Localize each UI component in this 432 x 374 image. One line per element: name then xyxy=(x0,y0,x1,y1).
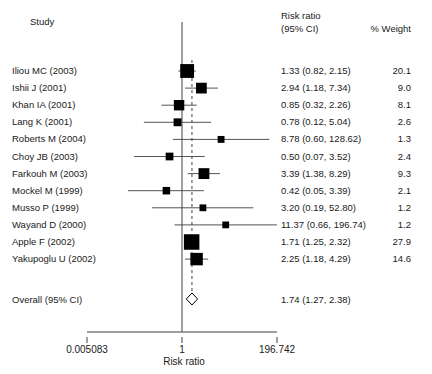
study-effect-marker xyxy=(190,253,202,265)
study-weight-value: 2.6 xyxy=(398,116,411,127)
study-risk-ratio-value: 0.42 (0.05, 3.39) xyxy=(281,185,351,196)
study-effect-marker xyxy=(222,222,229,229)
x-axis-tick-label: 0.005083 xyxy=(66,344,108,355)
column-header-confidence-interval: (95% CI) xyxy=(281,23,318,34)
study-effect-marker xyxy=(200,204,207,211)
study-name-label: Musso P (1999) xyxy=(12,202,79,213)
study-risk-ratio-value: 2.94 (1.18, 7.34) xyxy=(281,82,351,93)
study-weight-value: 9.3 xyxy=(398,168,411,179)
study-effect-marker xyxy=(174,100,184,110)
study-risk-ratio-value: 0.50 (0.07, 3.52) xyxy=(281,151,351,162)
x-axis-tick-label: 196.742 xyxy=(259,344,295,355)
x-axis-tick-label: 1 xyxy=(179,344,185,355)
study-name-label: Khan IA (2001) xyxy=(12,99,75,110)
study-weight-value: 2.4 xyxy=(398,151,411,162)
study-effect-marker xyxy=(184,234,200,250)
study-name-label: Roberts M (2004) xyxy=(12,133,86,144)
study-effect-marker xyxy=(196,83,207,94)
study-effect-marker xyxy=(199,168,210,179)
overall-risk-ratio-value: 1.74 (1.27, 2.38) xyxy=(281,294,351,305)
study-risk-ratio-value: 1.71 (1.25, 2.32) xyxy=(281,236,351,247)
study-weight-value: 1.2 xyxy=(398,202,411,213)
study-name-label: Lang K (2001) xyxy=(12,116,72,127)
axis-title: Risk ratio xyxy=(163,356,205,367)
overall-effect-diamond xyxy=(186,293,197,305)
column-header-weight: % Weight xyxy=(371,23,411,34)
study-name-label: Iliou MC (2003) xyxy=(12,65,77,76)
study-name-label: Farkouh M (2003) xyxy=(12,168,88,179)
study-name-label: Choy JB (2003) xyxy=(12,151,78,162)
study-weight-value: 20.1 xyxy=(393,65,412,76)
study-effect-marker xyxy=(163,187,171,195)
study-name-label: Ishii J (2001) xyxy=(12,82,66,93)
study-name-label: Apple F (2002) xyxy=(12,236,75,247)
study-weight-value: 2.1 xyxy=(398,185,411,196)
study-risk-ratio-value: 0.85 (0.32, 2.26) xyxy=(281,99,351,110)
study-risk-ratio-value: 1.33 (0.82, 2.15) xyxy=(281,65,351,76)
study-weight-value: 27.9 xyxy=(393,236,412,247)
overall-label: Overall (95% CI) xyxy=(12,294,82,305)
study-weight-value: 1.3 xyxy=(398,133,411,144)
study-risk-ratio-value: 0.78 (0.12, 5.04) xyxy=(281,116,351,127)
study-risk-ratio-value: 8.78 (0.60, 128.62) xyxy=(281,133,361,144)
study-name-label: Mockel M (1999) xyxy=(12,185,83,196)
study-weight-value: 8.1 xyxy=(398,99,411,110)
study-effect-marker xyxy=(174,118,182,126)
study-risk-ratio-value: 11.37 (0.66, 196.74) xyxy=(281,219,366,230)
study-effect-marker xyxy=(218,136,225,143)
study-risk-ratio-value: 3.20 (0.19, 52.80) xyxy=(281,202,356,213)
study-name-label: Wayand D (2000) xyxy=(12,219,86,230)
study-weight-value: 9.0 xyxy=(398,82,411,93)
study-weight-value: 1.2 xyxy=(398,219,411,230)
study-weight-value: 14.6 xyxy=(393,253,412,264)
study-effect-marker xyxy=(180,64,194,78)
study-risk-ratio-value: 2.25 (1.18, 4.29) xyxy=(281,253,351,264)
column-header-study: Study xyxy=(30,16,54,27)
study-effect-marker xyxy=(166,153,174,161)
column-header-risk-ratio: Risk ratio xyxy=(281,10,321,21)
study-name-label: Yakupoglu U (2002) xyxy=(12,253,96,264)
study-risk-ratio-value: 3.39 (1.38, 8.29) xyxy=(281,168,351,179)
